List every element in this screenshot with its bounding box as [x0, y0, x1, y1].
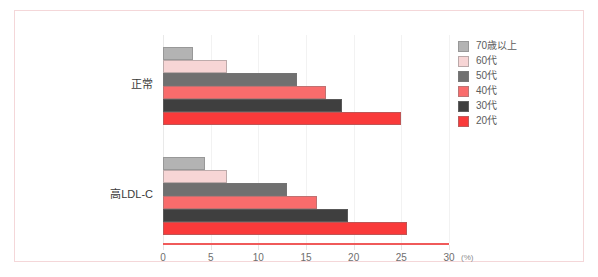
legend-item-70歳以上[interactable]: 70歳以上	[458, 39, 568, 53]
chart-frame: 正常高LDL-C (%) 051015202530 70歳以上60代50代40代…	[14, 10, 584, 262]
x-tick-30	[449, 245, 450, 250]
bar-row	[163, 196, 449, 209]
x-tick-label-20: 20	[348, 252, 359, 263]
chart-legend: 70歳以上60代50代40代30代20代	[458, 39, 568, 129]
bar-row	[163, 209, 449, 222]
bar-row	[163, 47, 449, 60]
legend-swatch-icon	[458, 56, 469, 67]
bar-高LDL-C-60代[interactable]	[163, 170, 227, 183]
legend-label: 70歳以上	[476, 41, 517, 51]
legend-item-40代[interactable]: 40代	[458, 84, 568, 98]
bar-row	[163, 170, 449, 183]
legend-label: 40代	[476, 86, 497, 96]
bar-group: 高LDL-C	[163, 157, 449, 235]
bar-row	[163, 60, 449, 73]
x-tick-label-15: 15	[300, 252, 311, 263]
legend-swatch-icon	[458, 41, 469, 52]
legend-swatch-icon	[458, 71, 469, 82]
bar-正常-60代[interactable]	[163, 60, 227, 73]
bar-row	[163, 99, 449, 112]
bar-group: 正常	[163, 47, 449, 125]
bar-row	[163, 86, 449, 99]
x-axis: (%) 051015202530	[163, 243, 449, 269]
bar-row	[163, 112, 449, 125]
x-tick-5	[211, 245, 212, 250]
x-tick-label-10: 10	[253, 252, 264, 263]
legend-label: 20代	[476, 116, 497, 126]
legend-item-50代[interactable]: 50代	[458, 69, 568, 83]
bar-正常-30代[interactable]	[163, 99, 342, 112]
bar-row	[163, 157, 449, 170]
legend-label: 50代	[476, 71, 497, 81]
x-tick-label-5: 5	[208, 252, 214, 263]
x-tick-10	[258, 245, 259, 250]
bar-row	[163, 183, 449, 196]
bar-高LDL-C-30代[interactable]	[163, 209, 348, 222]
x-tick-20	[354, 245, 355, 250]
legend-swatch-icon	[458, 101, 469, 112]
legend-item-60代[interactable]: 60代	[458, 54, 568, 68]
legend-item-20代[interactable]: 20代	[458, 114, 568, 128]
bar-row	[163, 222, 449, 235]
legend-swatch-icon	[458, 116, 469, 127]
bar-正常-20代[interactable]	[163, 112, 401, 125]
x-tick-15	[306, 245, 307, 250]
legend-label: 30代	[476, 101, 497, 111]
bar-row	[163, 73, 449, 86]
group-label-1: 高LDL-C	[110, 189, 153, 200]
bar-高LDL-C-20代[interactable]	[163, 222, 407, 235]
x-tick-0	[163, 245, 164, 250]
x-tick-label-25: 25	[396, 252, 407, 263]
bar-高LDL-C-50代[interactable]	[163, 183, 287, 196]
legend-label: 60代	[476, 56, 497, 66]
bar-正常-50代[interactable]	[163, 73, 297, 86]
bar-高LDL-C-40代[interactable]	[163, 196, 317, 209]
bar-正常-70歳以上[interactable]	[163, 47, 193, 60]
x-axis-unit-label: (%)	[461, 253, 473, 262]
plot-area: 正常高LDL-C	[163, 35, 449, 243]
x-tick-25	[401, 245, 402, 250]
x-tick-label-0: 0	[160, 252, 166, 263]
legend-item-30代[interactable]: 30代	[458, 99, 568, 113]
bar-正常-40代[interactable]	[163, 86, 326, 99]
bar-高LDL-C-70歳以上[interactable]	[163, 157, 205, 170]
group-label-0: 正常	[131, 79, 153, 90]
x-tick-label-30: 30	[443, 252, 454, 263]
legend-swatch-icon	[458, 86, 469, 97]
gridline-30	[449, 35, 450, 243]
